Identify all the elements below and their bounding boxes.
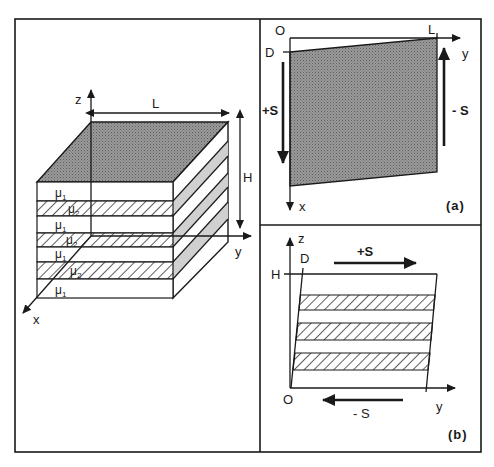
y-axis-label: y <box>436 399 443 414</box>
layer-6 <box>37 262 173 279</box>
hatched-layers <box>293 295 435 370</box>
x-axis-label: x <box>299 199 306 214</box>
origin-label: O <box>283 392 293 407</box>
length-label: L <box>152 96 159 111</box>
y-axis-label: y <box>235 244 242 259</box>
panel-b-tag: (b) <box>448 427 468 442</box>
left-panel-laminate-block: μ1 μ2 μ1 μ2 μ1 μ2 μ1 z y x L H <box>23 90 252 327</box>
negative-stress-label: - S <box>353 406 370 421</box>
positive-stress-label: +S <box>262 103 279 118</box>
h-label: H <box>271 267 280 282</box>
y-axis-label: y <box>462 46 469 61</box>
panel-b: z D H O y +S - S (b) <box>271 231 468 442</box>
negative-stress-label: - S <box>452 103 469 118</box>
x-axis-label: x <box>33 312 40 327</box>
sheared-plate-top-view <box>290 38 437 186</box>
layer-2 <box>37 201 173 216</box>
positive-stress-label: +S <box>357 244 374 259</box>
panel-a-tag: (a) <box>446 198 465 213</box>
origin-label: O <box>275 23 285 38</box>
z-axis-label: z <box>298 231 305 246</box>
layer-4 <box>37 233 173 247</box>
z-axis-label: z <box>75 92 82 107</box>
l-label: L <box>428 22 435 37</box>
height-label: H <box>243 170 252 185</box>
laminate-shear-figure: μ1 μ2 μ1 μ2 μ1 μ2 μ1 z y x L H <box>0 0 494 467</box>
panel-a: O D L y x +S - S (a) <box>262 22 469 214</box>
d-label: D <box>300 251 309 266</box>
d-label: D <box>265 45 274 60</box>
